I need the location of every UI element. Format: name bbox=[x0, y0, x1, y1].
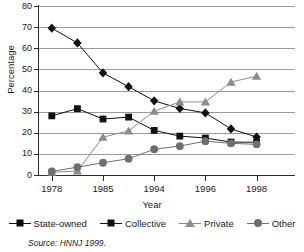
x-tick-label-1978: 1978 bbox=[41, 184, 62, 194]
y-tick-label-70: 70 bbox=[22, 23, 32, 32]
data-point bbox=[253, 140, 261, 148]
data-point bbox=[227, 124, 235, 133]
data-point bbox=[252, 72, 261, 80]
legend-item-other[interactable]: Other bbox=[247, 217, 296, 229]
y-tick-label-50: 50 bbox=[22, 65, 32, 74]
chart-legend: State-ownedCollectivePrivateOther bbox=[0, 215, 304, 231]
data-point bbox=[100, 116, 107, 123]
y-tick-label-10: 10 bbox=[22, 149, 32, 158]
data-point bbox=[202, 137, 210, 145]
x-tick bbox=[103, 176, 104, 181]
x-tick-label-1985: 1985 bbox=[92, 184, 113, 194]
data-point bbox=[150, 145, 158, 153]
x-tick-label-1996: 1996 bbox=[195, 184, 216, 194]
data-point bbox=[99, 159, 107, 167]
legend-label: Other bbox=[272, 218, 296, 229]
data-point bbox=[125, 155, 133, 163]
y-tick-label-0: 0 bbox=[27, 171, 32, 180]
legend-item-private[interactable]: Private bbox=[179, 217, 234, 229]
y-tick-label-30: 30 bbox=[22, 107, 32, 116]
legend-label: State-owned bbox=[34, 218, 87, 229]
chart-container: Percentage 01020304050607080 19781985199… bbox=[0, 0, 304, 252]
triangle-icon bbox=[179, 217, 201, 229]
legend-item-state-owned[interactable]: State-owned bbox=[9, 217, 87, 229]
data-point bbox=[201, 108, 209, 117]
data-point bbox=[227, 139, 235, 147]
data-point bbox=[150, 107, 159, 115]
data-point bbox=[151, 127, 158, 134]
x-tick bbox=[257, 176, 258, 181]
series-line-private bbox=[52, 76, 257, 172]
x-tick bbox=[154, 176, 155, 181]
data-point bbox=[125, 114, 132, 121]
data-point bbox=[48, 112, 55, 119]
data-point bbox=[176, 133, 183, 140]
x-tick-label-1998: 1998 bbox=[246, 184, 267, 194]
data-point bbox=[176, 142, 184, 150]
data-point bbox=[124, 126, 133, 134]
source-note: Source: HNNJ 1999. bbox=[28, 238, 106, 248]
x-tick bbox=[205, 176, 206, 181]
plot-area bbox=[39, 6, 295, 175]
legend-item-collective[interactable]: Collective bbox=[100, 217, 166, 229]
circle-icon bbox=[247, 217, 269, 229]
y-tick-label-80: 80 bbox=[22, 2, 32, 11]
data-point bbox=[48, 168, 56, 176]
square-icon bbox=[100, 217, 122, 229]
series-layer bbox=[39, 6, 295, 175]
y-axis-title: Percentage bbox=[5, 32, 16, 108]
x-axis-title: Year bbox=[0, 199, 304, 210]
series-line-state-owned bbox=[52, 28, 257, 137]
data-point bbox=[150, 96, 158, 105]
y-tick-label-60: 60 bbox=[22, 44, 32, 53]
data-point bbox=[74, 163, 82, 171]
y-tick-label-20: 20 bbox=[22, 128, 32, 137]
data-point bbox=[74, 105, 81, 112]
x-tick bbox=[52, 176, 53, 181]
data-point bbox=[124, 82, 132, 91]
y-tick-label-40: 40 bbox=[22, 86, 32, 95]
x-tick-label-1994: 1994 bbox=[144, 184, 165, 194]
legend-label: Private bbox=[204, 218, 234, 229]
data-point bbox=[48, 24, 56, 33]
legend-label: Collective bbox=[125, 218, 166, 229]
diamond-icon bbox=[9, 217, 31, 229]
